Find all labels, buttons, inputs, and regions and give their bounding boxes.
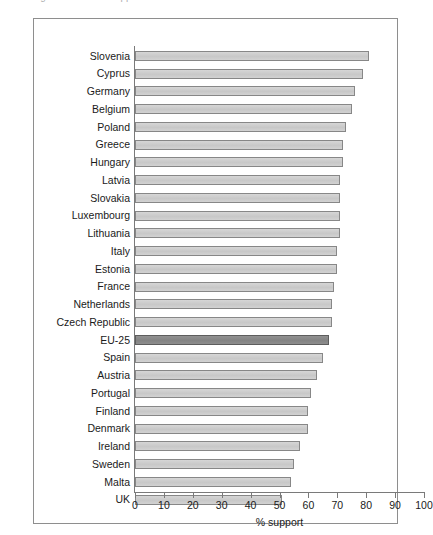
bar (135, 353, 323, 363)
bar (135, 69, 363, 79)
bar-category-label: UK (115, 494, 130, 505)
bar-category-label: Slovakia (90, 193, 130, 204)
x-axis-tick (366, 492, 367, 498)
x-axis-title: % support (135, 516, 424, 528)
x-axis-tick (135, 492, 136, 498)
x-axis-tick-label: 100 (415, 500, 433, 511)
x-axis-tick (251, 492, 252, 498)
x-axis-tick-label: 0 (132, 500, 138, 511)
x-axis-tick-label: 50 (274, 500, 286, 511)
bar-row: Czech Republic (135, 313, 424, 331)
bar (135, 211, 340, 221)
bar-category-label: Belgium (92, 104, 130, 115)
bar (135, 157, 343, 167)
bar-category-label: Germany (87, 86, 130, 97)
bar (135, 86, 355, 96)
bar-category-label: Greece (96, 139, 130, 150)
bar-row: Austria (135, 367, 424, 385)
bar-category-label: Czech Republic (56, 317, 130, 328)
x-axis-tick-label: 40 (245, 500, 257, 511)
x-axis-tick (193, 492, 194, 498)
bar-row: Cyprus (135, 65, 424, 83)
x-axis-tick-label: 80 (360, 500, 372, 511)
bar (135, 317, 332, 327)
bar (135, 175, 340, 185)
bar-row: Belgium (135, 100, 424, 118)
bar-category-label: Portugal (91, 388, 130, 399)
bar-category-label: Spain (103, 352, 130, 363)
bar (135, 246, 337, 256)
bar-category-label: Hungary (90, 157, 130, 168)
bar-category-label: Netherlands (73, 299, 130, 310)
x-axis-tick (164, 492, 165, 498)
bar-category-label: EU-25 (100, 335, 130, 346)
bar-category-label: Latvia (102, 175, 130, 186)
x-axis-tick (308, 492, 309, 498)
bar-row: France (135, 278, 424, 296)
bar-row: Hungary (135, 154, 424, 172)
bar-row: Sweden (135, 455, 424, 473)
x-axis-tick-label: 90 (389, 500, 401, 511)
bar (135, 370, 317, 380)
bar-row: Italy (135, 242, 424, 260)
bar-row: Malta (135, 473, 424, 491)
bar-row: Denmark (135, 420, 424, 438)
x-axis-tick-label: 30 (216, 500, 228, 511)
bar-row: Latvia (135, 171, 424, 189)
bar (135, 441, 300, 451)
bar-row: Slovenia (135, 47, 424, 65)
bar-row: Netherlands (135, 296, 424, 314)
bar-category-label: Sweden (92, 459, 130, 470)
figure-caption-strip: Figure 1.1 Public support for ... across… (0, 0, 411, 13)
x-axis-tick-label: 10 (158, 500, 170, 511)
bar-row: EU-25 (135, 331, 424, 349)
bar-row: Germany (135, 83, 424, 101)
bar-category-label: Poland (97, 122, 130, 133)
bar (135, 424, 308, 434)
x-axis-tick (395, 492, 396, 498)
bar-row: Portugal (135, 384, 424, 402)
x-axis-tick-label: 60 (303, 500, 315, 511)
bar-chart-plot-area: SloveniaCyprusGermanyBelgiumPolandGreece… (135, 47, 424, 491)
x-axis-tick (337, 492, 338, 498)
bar-category-label: Austria (97, 370, 130, 381)
bar-category-label: Italy (111, 246, 130, 257)
bar-row: Ireland (135, 438, 424, 456)
bar (135, 388, 311, 398)
bar (135, 299, 332, 309)
bar (135, 122, 346, 132)
x-axis-tick-label: 70 (331, 500, 343, 511)
bar-category-label: Luxembourg (72, 210, 130, 221)
x-axis-tick (424, 492, 425, 498)
x-axis-ticks (135, 492, 424, 498)
bar (135, 282, 334, 292)
bar-category-label: Cyprus (97, 68, 130, 79)
bar (135, 193, 340, 203)
bar-row: Greece (135, 136, 424, 154)
bar (135, 51, 369, 61)
bar-row: Slovakia (135, 189, 424, 207)
bar-category-label: Ireland (98, 441, 130, 452)
bar-highlight (135, 335, 329, 345)
bar-row: Estonia (135, 260, 424, 278)
bar-row: Lithuania (135, 225, 424, 243)
bar (135, 477, 291, 487)
bar-category-label: Lithuania (87, 228, 130, 239)
bar-row: Poland (135, 118, 424, 136)
bar-category-label: Estonia (95, 264, 130, 275)
bar-category-label: Slovenia (90, 51, 130, 62)
bar (135, 264, 337, 274)
bar-category-label: Malta (104, 477, 130, 488)
bar (135, 459, 294, 469)
bar-row: Finland (135, 402, 424, 420)
bar (135, 406, 308, 416)
x-axis-tick-label: 20 (187, 500, 199, 511)
figure-frame: SloveniaCyprusGermanyBelgiumPolandGreece… (33, 18, 398, 524)
x-axis-tick (280, 492, 281, 498)
figure-caption: Figure 1.1 Public support for ... across… (32, 0, 234, 2)
bar-row: Spain (135, 349, 424, 367)
bar-category-label: France (97, 281, 130, 292)
x-axis-tick (222, 492, 223, 498)
bar-category-label: Denmark (87, 423, 130, 434)
bar-row: Luxembourg (135, 207, 424, 225)
